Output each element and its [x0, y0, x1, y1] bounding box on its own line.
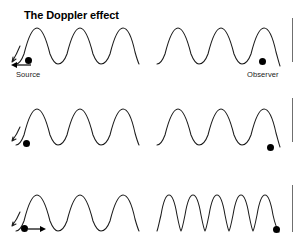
wave-row2-left — [14, 105, 140, 147]
source-marker-row1 — [25, 57, 32, 64]
wave-row2-left-tail — [10, 127, 24, 147]
wave-row2-right — [155, 105, 281, 147]
source-label: Source — [16, 70, 40, 79]
observer-label: Observer — [247, 70, 279, 79]
doppler-effect-figure: The Doppler effect Source Observer — [0, 0, 296, 250]
observer-marker-row3 — [273, 226, 280, 233]
source-arrow-row3 — [28, 224, 50, 234]
observer-marker-row2 — [267, 144, 274, 151]
edge-tick-row2 — [292, 98, 293, 142]
edge-tick-row1 — [292, 18, 293, 62]
edge-tick-row3 — [292, 185, 293, 232]
observer-marker-row1 — [259, 58, 266, 65]
source-marker-row3 — [21, 225, 28, 232]
figure-title: The Doppler effect — [24, 9, 119, 21]
source-marker-row2 — [23, 140, 30, 147]
wave-row3-right — [155, 191, 281, 233]
